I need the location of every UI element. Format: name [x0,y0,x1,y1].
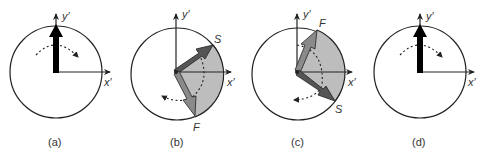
y-axis-label: y′ [61,10,71,22]
panel-a: y′ x′ (a) [10,10,113,148]
x-axis-label: x′ [103,76,113,88]
y-axis-label: y′ [302,8,312,20]
y-axis-label: y′ [425,10,435,22]
vector-s-label: S [335,103,343,115]
x-axis-label: x′ [347,76,357,88]
caption: (c) [291,136,304,148]
figure: y′ x′ (a) y′ x′ S F (b) y′ x′ [0,0,489,157]
caption: (a) [48,136,61,148]
x-axis-label: x′ [226,76,236,88]
caption: (b) [170,136,183,148]
panel-b: y′ x′ S F (b) [131,8,236,148]
caption: (d) [412,136,425,148]
y-axis-label: y′ [181,8,191,20]
panel-d: y′ x′ (d) [374,10,477,148]
x-axis-label: x′ [467,76,477,88]
vector-arrow [49,24,63,73]
vector-arrow [413,24,427,73]
vector-f-label: F [319,17,327,29]
panel-c: y′ x′ F S (c) [252,8,357,148]
vector-s-label: S [214,33,222,45]
vector-f-label: F [193,121,201,133]
